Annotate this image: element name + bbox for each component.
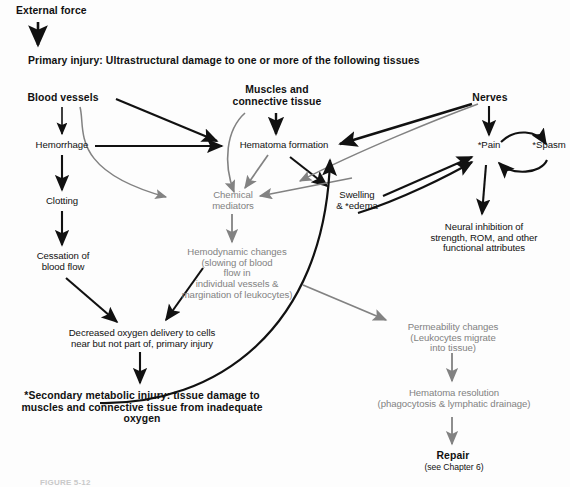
- node-neural-inhibition: Neural inhibition of strength, ROM, and …: [410, 222, 558, 254]
- connector-hematoma-to-swelling: [290, 157, 327, 186]
- figure-flowchart: External force Primary injury: Ultrastru…: [0, 0, 570, 487]
- connector-swelling-to-pain: [383, 157, 472, 196]
- node-primary-injury: Primary injury: Ultrastructural damage t…: [28, 55, 420, 67]
- connector-blood-vessels-to-chemical-mediators: [80, 107, 166, 197]
- node-hemorrhage: Hemorrhage: [24, 140, 100, 151]
- node-clotting: Clotting: [28, 196, 96, 207]
- node-chemical-mediators: Chemical mediators: [198, 190, 268, 211]
- connector-spasm-to-pain: [499, 160, 547, 172]
- node-repair-subtitle: (see Chapter 6): [408, 463, 500, 473]
- node-spasm: *Spasm: [528, 140, 570, 151]
- figure-caption: FIGURE 5-12: [40, 478, 91, 487]
- node-pain: *Pain: [467, 140, 511, 151]
- connector-pain-to-neural-inhibition: [482, 165, 486, 214]
- connector-hemodynamic-to-permeability: [303, 285, 386, 320]
- node-cessation-of-blood-flow: Cessation of blood flow: [25, 251, 101, 272]
- node-hematoma-resolution: Hematoma resolution (phagocytosis & lymp…: [364, 388, 544, 409]
- connector-hematoma-to-chemical-mediators: [245, 155, 268, 188]
- connector-blood-vessels-to-hematoma-formation: [116, 99, 217, 141]
- node-nerves: Nerves: [455, 92, 525, 104]
- connector-cessation-to-decreased-oxygen: [66, 278, 117, 322]
- connector-muscles-to-chemical-mediators: [228, 113, 245, 192]
- node-hemodynamic-changes: Hemodynamic changes (slowing of blood fl…: [172, 247, 302, 301]
- node-external-force: External force: [16, 5, 87, 17]
- connector-nerves-to-hematoma-formation: [340, 104, 472, 144]
- node-swelling-edema: Swelling & *edema: [322, 190, 392, 211]
- node-decreased-oxygen-delivery: Decreased oxygen delivery to cells near …: [44, 328, 240, 349]
- node-hematoma-formation: Hematoma formation: [227, 140, 341, 151]
- node-muscles-connective-tissue: Muscles and connective tissue: [220, 84, 334, 107]
- node-permeability-changes: Permeability changes (Leukocytes migrate…: [390, 322, 516, 354]
- node-secondary-metabolic-injury: *Secondary metabolic injury: tissue dama…: [6, 390, 278, 425]
- node-blood-vessels: Blood vessels: [20, 92, 106, 104]
- node-repair: Repair: [418, 450, 488, 462]
